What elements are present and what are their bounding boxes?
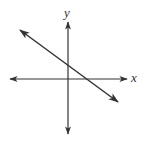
coordinate-plane: y x xyxy=(0,0,143,143)
x-axis-label: x xyxy=(131,71,137,84)
plotted-line xyxy=(20,30,118,102)
graph-svg xyxy=(0,0,143,143)
y-axis-label: y xyxy=(64,6,70,19)
